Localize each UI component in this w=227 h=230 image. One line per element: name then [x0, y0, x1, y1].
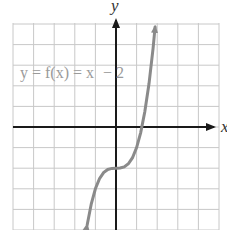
function-label-lhs: y = f(x) = x	[20, 64, 94, 81]
function-graph	[0, 0, 227, 230]
function-label: y = f(x) = x3 − 2	[20, 63, 124, 82]
x-axis-label: x	[221, 117, 227, 137]
y-axis-label: y	[111, 0, 119, 16]
function-label-rhs: − 2	[99, 64, 124, 81]
function-curve	[87, 27, 155, 225]
